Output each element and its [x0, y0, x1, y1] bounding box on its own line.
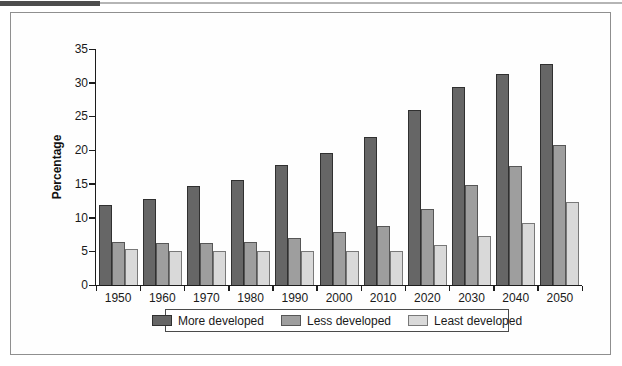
- bar-1990-less-developed: [288, 238, 301, 285]
- x-axis-label-1990: 1990: [273, 291, 317, 305]
- y-axis-tick-label: 15: [48, 177, 88, 191]
- x-axis-label-1980: 1980: [229, 291, 273, 305]
- y-axis-tick: [89, 116, 95, 118]
- y-axis-tick-label: 5: [48, 244, 88, 258]
- y-axis-tick-label: 0: [48, 278, 88, 292]
- x-axis-label-2020: 2020: [405, 291, 449, 305]
- bar-2000-least-developed: [346, 251, 359, 285]
- x-axis-label-2040: 2040: [494, 291, 538, 305]
- bar-2020-least-developed: [434, 245, 447, 285]
- bar-1970-more-developed: [187, 186, 200, 285]
- bar-1960-more-developed: [143, 199, 156, 285]
- chart-panel: Percentage 05101520253035195019601970198…: [10, 12, 611, 355]
- y-axis-tick-label: 20: [48, 143, 88, 157]
- bar-1950-less-developed: [112, 242, 125, 285]
- bar-2020-less-developed: [421, 209, 434, 285]
- y-axis-tick: [89, 150, 95, 152]
- y-axis-tick-label: 35: [48, 42, 88, 56]
- y-axis-tick-label: 10: [48, 211, 88, 225]
- bar-1970-less-developed: [200, 243, 213, 285]
- bar-2030-least-developed: [478, 236, 491, 285]
- legend-swatch-icon: [408, 315, 428, 326]
- bar-2000-less-developed: [333, 232, 346, 285]
- bar-1950-least-developed: [125, 249, 138, 285]
- bar-2050-least-developed: [566, 202, 579, 285]
- x-axis-label-2030: 2030: [450, 291, 494, 305]
- bar-2040-less-developed: [509, 166, 522, 285]
- y-axis-tick: [89, 49, 95, 51]
- bar-1950-more-developed: [99, 205, 112, 285]
- bar-2010-least-developed: [390, 251, 403, 285]
- y-axis-tick: [89, 285, 95, 287]
- x-axis-label-2010: 2010: [361, 291, 405, 305]
- y-axis-tick: [89, 82, 95, 84]
- bar-2040-more-developed: [496, 74, 509, 285]
- x-axis-label-1950: 1950: [96, 291, 140, 305]
- bar-2000-more-developed: [320, 153, 333, 285]
- x-axis-label-2000: 2000: [317, 291, 361, 305]
- legend: More developedLess developedLeast develo…: [165, 309, 509, 332]
- bar-1980-more-developed: [231, 180, 244, 285]
- bar-1990-least-developed: [301, 251, 314, 285]
- bar-1980-less-developed: [244, 242, 257, 285]
- bar-2030-more-developed: [452, 87, 465, 285]
- bar-1970-least-developed: [213, 251, 226, 285]
- bar-2010-more-developed: [364, 137, 377, 285]
- legend-item-more-developed: More developed: [152, 314, 264, 328]
- x-axis-label-1960: 1960: [140, 291, 184, 305]
- bar-2050-less-developed: [553, 145, 566, 285]
- x-axis-label-2050: 2050: [538, 291, 582, 305]
- y-axis-tick: [89, 251, 95, 253]
- y-axis-tick-label: 25: [48, 109, 88, 123]
- bar-1990-more-developed: [275, 165, 288, 285]
- legend-item-less-developed: Less developed: [281, 314, 391, 328]
- bar-1960-less-developed: [156, 243, 169, 285]
- bar-1980-least-developed: [257, 251, 270, 285]
- bar-1960-least-developed: [169, 251, 182, 285]
- legend-label: Least developed: [434, 314, 522, 328]
- legend-swatch-icon: [152, 315, 172, 326]
- legend-item-least-developed: Least developed: [408, 314, 522, 328]
- y-axis-tick-label: 30: [48, 76, 88, 90]
- legend-label: Less developed: [307, 314, 391, 328]
- bar-2020-more-developed: [408, 110, 421, 285]
- legend-swatch-icon: [281, 315, 301, 326]
- y-axis-tick: [89, 183, 95, 185]
- plot-area: 0510152025303519501960197019801990200020…: [95, 49, 582, 286]
- bar-2050-more-developed: [540, 64, 553, 285]
- y-axis-tick: [89, 217, 95, 219]
- bar-2030-less-developed: [465, 185, 478, 285]
- page-top-accent-bar: [0, 1, 100, 6]
- bar-2040-least-developed: [522, 223, 535, 285]
- legend-label: More developed: [178, 314, 264, 328]
- x-axis-label-1970: 1970: [184, 291, 228, 305]
- bar-2010-less-developed: [377, 226, 390, 285]
